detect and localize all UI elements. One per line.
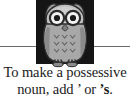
caption-line-2-period: . (109, 81, 113, 97)
caption-line-2-plain: noun, add ’ or (17, 81, 99, 97)
caption-apostrophe-s-bold: ’s (100, 81, 110, 97)
caption-line-1: To make a possessive (0, 64, 130, 81)
owl-icon (36, 0, 94, 70)
caption-text: To make a possessive noun, add ’ or ’s. (0, 64, 130, 98)
caption-line-2: noun, add ’ or ’s. (0, 81, 130, 98)
clipart-caption-card: To make a possessive noun, add ’ or ’s. (0, 0, 130, 100)
